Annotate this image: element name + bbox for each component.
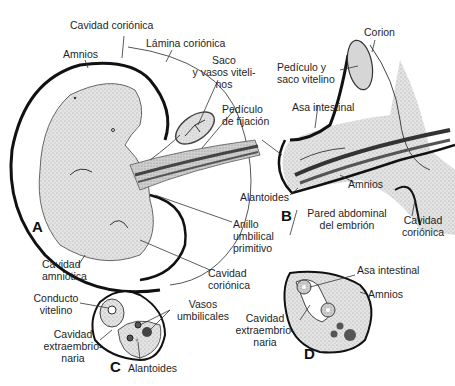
- umbilical-cord-figure: Cavidad coriónica Lámina coriónica Amnio…: [0, 0, 455, 386]
- label-b-asa-intestinal: Asa intestinal: [292, 101, 354, 113]
- label-a-anillo-umbilical: Anillo umbilical primitivo: [233, 218, 274, 254]
- label-c-alantoides: Alantoides: [128, 362, 177, 374]
- label-d-asa-intestinal: Asa intestinal: [357, 264, 419, 276]
- panel-letter-c: C: [110, 358, 121, 375]
- label-b-pared-abdominal: Pared abdominal del embrión: [302, 207, 392, 231]
- label-a-amnios: Amnios: [63, 48, 98, 60]
- label-b-amnios: Amnios: [348, 178, 383, 190]
- label-c-conducto-vitelino: Conducto vitelino: [28, 292, 84, 316]
- label-b-corion: Corion: [364, 26, 395, 38]
- label-a-cavidad-amniotica: Cavidad amniótica: [42, 258, 87, 282]
- panel-letter-b: B: [281, 207, 292, 224]
- label-a-saco-vasos: Saco y vasos viteli- nos: [188, 54, 260, 90]
- panel-letter-a: A: [32, 218, 43, 235]
- label-a-cavidad-corionica-bottom: Cavidad coriónica: [208, 267, 250, 291]
- label-b-alantoides: Alantoides: [240, 191, 289, 203]
- label-c-vasos-umbilicales: Vasos umbilicales: [173, 298, 233, 322]
- label-d-cavidad-extraembrionaria: Cavidad extraembrio- naria: [232, 312, 298, 348]
- label-c-cavidad-extraembrionaria: Cavidad extraembrio- naria: [40, 328, 106, 364]
- label-a-lamina-corionica: Lámina coriónica: [146, 37, 225, 49]
- label-a-cavidad-corionica: Cavidad coriónica: [70, 19, 153, 31]
- label-a-pediculo-fijacion: Pedículo de fijación: [222, 103, 269, 127]
- label-d-amnios: Amnios: [368, 288, 403, 300]
- label-b-cavidad-corionica: Cavidad coriónica: [394, 214, 452, 238]
- panel-letter-d: D: [304, 345, 315, 362]
- label-b-pediculo-saco: Pedículo y saco vitelino: [277, 61, 335, 85]
